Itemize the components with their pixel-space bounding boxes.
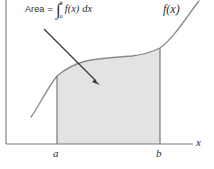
function-curve-label: f(x) (163, 3, 180, 15)
tick-label-b: b (156, 148, 162, 159)
integral-sign-icon: ∫ (56, 3, 61, 17)
differential-label: dx (82, 4, 92, 15)
definite-integral-expression: ∫ b a f(x) dx (56, 2, 92, 17)
x-axis-label: x (196, 137, 201, 148)
equals-sign: = (46, 5, 54, 15)
shaded-area-region (57, 48, 160, 144)
integrand-label: f(x) (65, 4, 80, 15)
area-word-label: Area (25, 5, 44, 14)
figure-canvas (0, 0, 214, 169)
area-equation-label: Area = ∫ b a f(x) dx (25, 2, 92, 17)
integral-area-figure: Area = ∫ b a f(x) dx f(x) a b x (0, 0, 214, 169)
tick-label-a: a (53, 148, 59, 159)
